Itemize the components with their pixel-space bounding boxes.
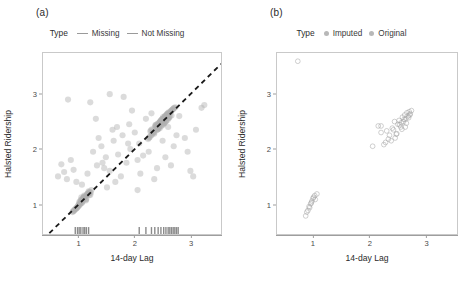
y-tick-label: 1: [267, 200, 271, 209]
point-key-icon: [369, 31, 374, 36]
data-point: [99, 160, 105, 166]
data-point: [154, 165, 160, 171]
legend-title: Type: [297, 28, 315, 38]
data-point: [140, 153, 146, 159]
y-tick-label: 3: [267, 89, 271, 98]
scatter-series-imputed: [304, 113, 412, 215]
x-tick-3: 3: [425, 235, 429, 248]
data-point: [98, 143, 104, 149]
point-key-icon: [324, 31, 329, 36]
x-tick-3: 3: [189, 235, 193, 248]
x-tick-label: 3: [189, 239, 193, 248]
panel-a-label: (a): [36, 7, 49, 18]
data-point: [171, 143, 177, 149]
y-tick-label: 3: [33, 89, 37, 98]
legend-label-missing: Missing: [92, 29, 120, 38]
x-tick-label: 2: [368, 239, 372, 248]
data-point: [101, 165, 107, 171]
data-point: [165, 124, 171, 130]
data-point: [129, 108, 135, 114]
data-point: [64, 176, 70, 182]
panel-b-x-axis-title: 14-day Lag: [276, 253, 458, 263]
data-point: [162, 154, 168, 160]
y-tick-2: 2: [33, 145, 42, 154]
data-point: [107, 91, 113, 97]
x-tick-mark: [134, 235, 135, 238]
data-point: [151, 176, 157, 182]
panel-b-legend: Type Imputed Original: [234, 28, 469, 38]
data-point: [135, 187, 141, 193]
data-point: [71, 167, 77, 173]
data-point: [137, 171, 143, 177]
line-key-icon: [77, 33, 88, 34]
data-point: [193, 127, 199, 133]
data-point: [182, 135, 188, 141]
data-point: [58, 161, 64, 167]
data-point: [190, 173, 196, 179]
data-point: [55, 173, 61, 179]
data-point: [392, 119, 397, 124]
x-tick-mark: [369, 235, 370, 238]
data-point: [111, 138, 117, 144]
panel-b-scatter-canvas: [277, 53, 457, 234]
y-tick-1: 1: [267, 200, 276, 209]
panel-a: (a) Type Missing Not Missing Halsted Rid…: [0, 0, 234, 287]
legend-entry-original[interactable]: Original: [369, 29, 406, 38]
x-tick-mark: [78, 235, 79, 238]
data-point: [73, 179, 79, 185]
data-point: [384, 129, 389, 134]
scatter-series-not-missing: [69, 104, 178, 215]
x-tick-mark: [312, 235, 313, 238]
legend-title: Type: [50, 28, 68, 38]
legend-label-imputed: Imputed: [333, 29, 363, 38]
panel-a-x-ticks: 123: [42, 235, 222, 249]
data-point: [146, 149, 152, 155]
data-point: [84, 171, 90, 177]
panel-a-x-axis-title: 14-day Lag: [42, 253, 222, 263]
panel-b-y-axis-title: Halsted Ridership: [236, 52, 248, 235]
data-point: [379, 130, 384, 135]
data-point: [135, 157, 141, 163]
data-point: [148, 110, 154, 116]
data-point: [121, 94, 127, 100]
data-point: [112, 179, 118, 185]
data-point: [160, 138, 166, 144]
panel-b-plot-area: [276, 52, 458, 235]
data-point: [87, 99, 93, 105]
data-point: [107, 168, 113, 174]
x-tick-2: 2: [133, 235, 137, 248]
data-point: [198, 105, 204, 111]
x-tick-mark: [426, 235, 427, 238]
data-point: [79, 182, 85, 188]
y-tick-1: 1: [33, 200, 42, 209]
x-tick-label: 3: [425, 239, 429, 248]
x-tick-label: 1: [76, 239, 80, 248]
panel-a-y-axis-title: Halsted Ridership: [2, 52, 14, 235]
legend-entry-imputed[interactable]: Imputed: [324, 29, 363, 38]
data-point: [65, 97, 71, 103]
legend-entry-missing[interactable]: Missing: [77, 29, 120, 38]
x-tick-label: 1: [311, 239, 315, 248]
line-key-icon: [127, 33, 138, 34]
data-point: [103, 154, 109, 160]
figure-container: (a) Type Missing Not Missing Halsted Rid…: [0, 0, 469, 287]
data-point: [123, 160, 129, 166]
data-point: [126, 121, 132, 127]
panel-b-x-ticks: 123: [276, 235, 458, 249]
data-point: [370, 144, 375, 149]
data-point: [115, 151, 121, 157]
data-point: [118, 173, 124, 179]
data-point: [96, 135, 102, 141]
data-point: [295, 59, 300, 64]
panel-a-plot-area: [42, 52, 222, 235]
legend-entry-not-missing[interactable]: Not Missing: [127, 29, 185, 38]
panel-b-label: (b): [270, 7, 283, 18]
data-point: [132, 129, 138, 135]
panel-a-scatter-canvas: [43, 53, 221, 234]
y-tick-label: 2: [267, 145, 271, 154]
data-point: [125, 140, 131, 146]
y-tick-label: 2: [33, 145, 37, 154]
x-tick-label: 2: [133, 239, 137, 248]
data-point: [187, 168, 193, 174]
data-point: [104, 184, 110, 190]
